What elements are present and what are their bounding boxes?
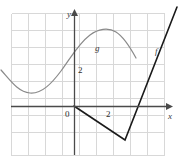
x-axis-label: x xyxy=(168,112,172,121)
curve-f xyxy=(74,7,177,140)
grid-lines xyxy=(12,14,165,156)
graph-figure: y x 0 2 2 f g xyxy=(0,0,179,162)
x-tick-label-2: 2 xyxy=(106,110,111,119)
plot-canvas xyxy=(0,0,179,162)
curve-g xyxy=(1,29,136,93)
y-tick-label-2: 2 xyxy=(78,66,83,75)
x-axis xyxy=(11,103,173,110)
origin-tick-label: 0 xyxy=(65,110,70,119)
curve-label-f: f xyxy=(155,47,158,56)
curve-label-g: g xyxy=(95,44,100,53)
y-axis-label: y xyxy=(67,10,71,19)
